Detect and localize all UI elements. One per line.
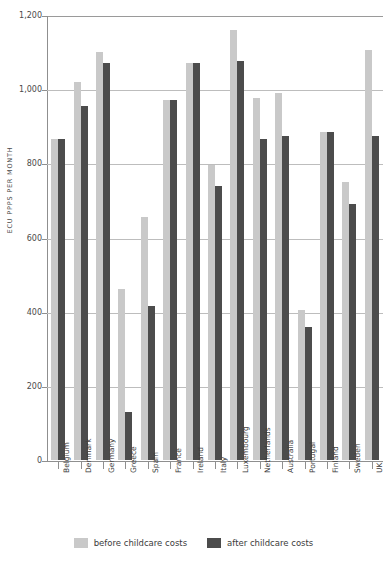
bar-before-childcare (96, 52, 103, 460)
bar-after-childcare (260, 139, 267, 460)
y-tick-mark (42, 16, 47, 17)
bar-group (275, 15, 289, 460)
bar-group (298, 15, 312, 460)
y-tick-label: 0 (2, 456, 42, 465)
x-tick-label: Finland (331, 446, 340, 473)
y-tick-label: 1,200 (2, 11, 42, 20)
x-tick-label: Greece (129, 446, 138, 473)
bar-before-childcare (163, 100, 170, 460)
bar-before-childcare (275, 93, 282, 460)
bar-before-childcare (320, 132, 327, 460)
x-tick-label: Luxembourg (241, 426, 250, 473)
bar-after-childcare (349, 204, 356, 460)
x-tick-mark (372, 462, 373, 469)
x-tick-label: Netherlands (263, 427, 272, 473)
bar-after-childcare (305, 327, 312, 461)
bar-after-childcare (193, 63, 200, 460)
bar-after-childcare (81, 106, 88, 460)
bar-chart: ECU PPPS PER MONTH 1,2001,00080060040020… (0, 0, 387, 568)
y-tick-label: 400 (2, 308, 42, 317)
x-tick-mark (170, 462, 171, 469)
legend-item: before childcare costs (74, 538, 187, 548)
x-tick-label: Belgium (62, 442, 71, 473)
y-tick-mark (42, 164, 47, 165)
bar-before-childcare (298, 310, 305, 460)
bar-group (320, 15, 334, 460)
bar-before-childcare (51, 139, 58, 460)
bar-group (230, 15, 244, 460)
x-tick-mark (282, 462, 283, 469)
bar-after-childcare (282, 136, 289, 460)
legend: before childcare costsafter childcare co… (0, 538, 387, 548)
x-tick-label: Denmark (84, 439, 93, 473)
x-tick-mark (58, 462, 59, 469)
bar-group (208, 15, 222, 460)
bar-before-childcare (253, 98, 260, 460)
bar-before-childcare (141, 217, 148, 460)
bar-group (96, 15, 110, 460)
legend-label: before childcare costs (94, 538, 187, 548)
x-tick-label: Australia (286, 440, 295, 473)
bar-after-childcare (372, 136, 379, 460)
x-tick-label: Germany (107, 439, 116, 473)
bar-group (253, 15, 267, 460)
x-tick-mark (81, 462, 82, 469)
y-axis-tick-labels: 1,2001,0008006004002000 (0, 16, 42, 462)
x-tick-label: UK (375, 463, 384, 473)
x-tick-label: France (174, 448, 183, 473)
bar-after-childcare (170, 100, 177, 460)
bar-before-childcare (365, 50, 372, 460)
bar-group (74, 15, 88, 460)
bar-group (141, 15, 155, 460)
x-tick-mark (349, 462, 350, 469)
x-tick-mark (305, 462, 306, 469)
y-tick-mark (42, 387, 47, 388)
bar-after-childcare (327, 132, 334, 460)
y-tick-mark (42, 461, 47, 462)
x-tick-mark (327, 462, 328, 469)
y-tick-label: 800 (2, 159, 42, 168)
bar-before-childcare (230, 30, 237, 460)
x-tick-mark (125, 462, 126, 469)
bar-group (118, 15, 132, 460)
y-tick-mark (42, 313, 47, 314)
bar-after-childcare (148, 306, 155, 460)
x-tick-mark (103, 462, 104, 469)
bar-group (51, 15, 65, 460)
plot-area: BelgiumDenmarkGermanyGreeceSpainFranceIr… (47, 16, 383, 461)
x-tick-label: Portugal (308, 442, 317, 473)
x-tick-mark (148, 462, 149, 469)
bar-after-childcare (103, 63, 110, 460)
x-tick-mark (260, 462, 261, 469)
bar-before-childcare (186, 63, 193, 460)
bar-before-childcare (342, 182, 349, 460)
bar-before-childcare (74, 82, 81, 460)
bar-before-childcare (208, 165, 215, 460)
bar-after-childcare (237, 61, 244, 460)
y-tick-label: 600 (2, 234, 42, 243)
x-tick-mark (237, 462, 238, 469)
legend-item: after childcare costs (207, 538, 313, 548)
y-tick-mark (42, 239, 47, 240)
x-tick-label: Italy (219, 457, 228, 473)
bar-group (365, 15, 379, 460)
y-tick-mark (42, 90, 47, 91)
x-tick-label: Sweden (353, 443, 362, 473)
x-tick-mark (193, 462, 194, 469)
legend-swatch-after (207, 538, 221, 548)
y-tick-label: 200 (2, 382, 42, 391)
x-tick-label: Spain (151, 452, 160, 473)
bar-group (163, 15, 177, 460)
bar-after-childcare (215, 186, 222, 460)
bar-group (186, 15, 200, 460)
bar-after-childcare (58, 139, 65, 460)
legend-label: after childcare costs (227, 538, 313, 548)
y-tick-label: 1,000 (2, 85, 42, 94)
x-tick-mark (215, 462, 216, 469)
bar-group (342, 15, 356, 460)
x-tick-label: Ireland (196, 447, 205, 473)
bar-before-childcare (118, 289, 125, 460)
legend-swatch-before (74, 538, 88, 548)
